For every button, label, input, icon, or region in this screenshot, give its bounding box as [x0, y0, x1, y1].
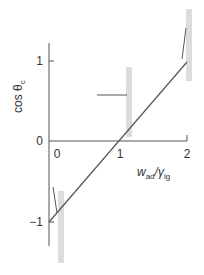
- x-axis-label: wad/γlg: [137, 165, 170, 181]
- series-line: [49, 62, 187, 222]
- substrate-bar-x2: [186, 9, 192, 81]
- y-tick-label-minus1: −1: [29, 215, 43, 229]
- x-tick-label-1: 1: [117, 147, 124, 161]
- chart: 1 0 −1 0 1 2 wad/γlg cos θc: [0, 0, 204, 275]
- substrate-bar-x0: [58, 191, 64, 263]
- y-axis-label: cos θc: [11, 80, 27, 113]
- tangent-line-x0: [53, 187, 57, 213]
- y-tick-label-1: 1: [36, 54, 43, 68]
- x-tick-label-2: 2: [184, 147, 191, 161]
- tangent-line-x2: [182, 28, 186, 59]
- y-tick-label-0: 0: [36, 134, 43, 148]
- x-tick-label-0: 0: [54, 147, 61, 161]
